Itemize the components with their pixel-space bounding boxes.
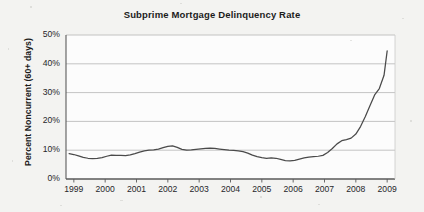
x-axis-tick-label: 2009	[367, 184, 407, 194]
chart-figure: Subprime Mortgage Delinquency Rate Perce…	[0, 0, 424, 212]
plot-area	[0, 0, 424, 212]
y-axis-tick-label: 0%	[26, 173, 60, 183]
y-axis-tick-label: 40%	[26, 58, 60, 68]
y-axis-tick-label: 20%	[26, 115, 60, 125]
y-axis-tick-label: 50%	[26, 29, 60, 39]
plot-background	[66, 35, 395, 179]
y-axis-tick-label: 30%	[26, 87, 60, 97]
y-axis-tick-label: 10%	[26, 144, 60, 154]
